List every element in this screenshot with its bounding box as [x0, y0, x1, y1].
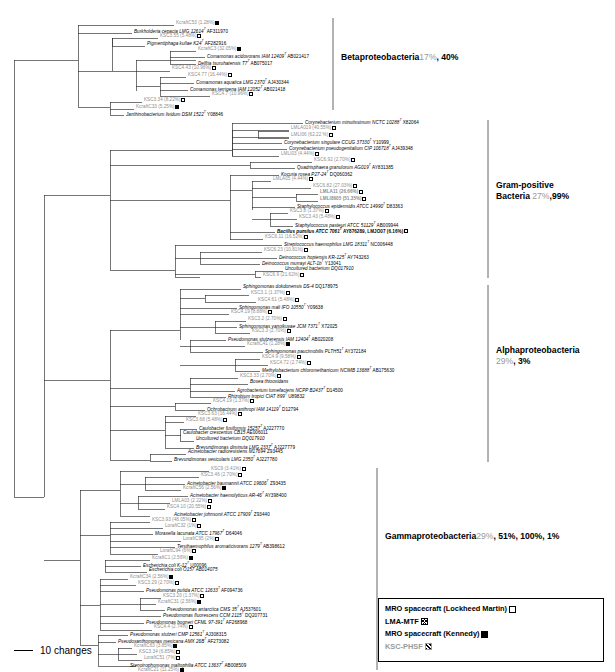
cross-hatched-square-icon: [304, 235, 308, 239]
taxon-label: KSC4.77 (16.44%): [188, 72, 232, 77]
taxon-name: KSC3.93 (48.05%): [152, 517, 191, 522]
taxon-label: KcraftC34 (2.56%): [130, 574, 173, 579]
taxon-name: KcraftC34 (2.56%): [130, 574, 169, 579]
group-pct-alpha-1: 3%: [518, 356, 530, 366]
accession-number: AB075017: [249, 61, 272, 66]
taxon-label: KcraftC41 (1.28%): [247, 341, 290, 346]
legend-label-mro-kennedy: MRO spacecraft (Kennedy): [385, 628, 479, 641]
cross-hatched-square-icon: [268, 310, 272, 314]
taxon-name: Pseudomonas stutzeri CMP 12561: [130, 632, 202, 637]
legend-item-ksc-phsf: KSC-PHSF: [385, 641, 597, 654]
taxon-name: KSC3.34 (8.22%): [144, 97, 181, 102]
cross-hatched-square-icon: [238, 473, 242, 477]
taxon-label: LMLI06 (62.22 %): [291, 132, 333, 137]
legend-box: MRO spacecraft (Lockheed Martin) LMA-MTF…: [378, 598, 604, 662]
filled-square-icon: [175, 105, 179, 109]
taxon-label: KSC3.8 (1.37%): [290, 208, 329, 213]
accession-number: AB021417: [286, 54, 309, 59]
taxon-name: KSC3.68 (5.48%): [186, 417, 223, 422]
taxon-name: Pseudomonas fluorescens CCM 2115: [163, 613, 242, 618]
taxon-label: KSC6.9 (21.62%): [263, 272, 304, 277]
open-square-icon: [197, 524, 201, 528]
filled-square-icon: [215, 21, 219, 25]
taxon-label: LoraftC94 (6%): [160, 548, 196, 553]
cross-hatched-square-icon: [329, 133, 333, 137]
taxon-name: KSC3.1 (1.37%): [251, 290, 285, 295]
taxon-name: Corynebacterium pseudogenitalium CIP 106…: [289, 146, 389, 151]
group-label-gammaproteobacteria: Gammaproteobacteria29%, 51%, 100%, 1%: [385, 531, 559, 542]
taxon-name: KSC4.10 (20.55%): [167, 504, 206, 509]
taxon-label: Acinetobacter haemolyticus AR-46T AY3984…: [190, 491, 287, 498]
accession-number: D12794: [281, 407, 299, 412]
group-label-betaproteobacteria: Betaproteobacteria17%, 40%: [341, 52, 459, 63]
scale-bar: 10 changes: [14, 645, 92, 656]
taxon-name: Acinetobacter haemolyticus AR-46: [190, 493, 262, 498]
taxon-label: KSC3.1 (1.37%): [251, 290, 290, 295]
cross-hatched-square-icon: [297, 355, 301, 359]
taxon-label: LMLA03 (2.22%): [172, 498, 212, 503]
taxon-label: KSC4.19 (1.37%): [213, 398, 254, 403]
cross-hatched-square-icon: [250, 399, 254, 403]
taxon-label: KSC4.10 (20.55%): [167, 504, 211, 509]
group-name-gram-line2: Bacteria: [496, 191, 530, 201]
accession-number: NC006448: [369, 242, 393, 247]
taxon-label: KSC4.61 (5.48%): [258, 297, 299, 302]
accession-number: AY831385: [371, 165, 394, 170]
group-pct-gamma-1: 51%: [498, 531, 515, 541]
accession-number: AB175630: [371, 368, 394, 373]
group-name-gram-line1: Gram-positive: [496, 180, 569, 191]
taxon-label: KSC3.46 (2.70%): [201, 472, 242, 477]
accession-number: AJ430344: [267, 80, 289, 85]
taxon-name: KSC3.43 (5.48%): [299, 214, 336, 219]
taxon-label: KSC6.92 (2.70%): [314, 157, 355, 162]
taxon-name: KSC6.82 (27.03%): [313, 183, 352, 188]
group-pct-beta-1: 40%: [441, 52, 458, 62]
legend-label-ksc-phsf: KSC-PHSF: [385, 641, 423, 654]
filled-square-icon: [189, 556, 193, 560]
taxon-name: KcraftC3 (32.05%): [198, 46, 237, 51]
taxon-label: LMLA05 (4.44%): [273, 176, 313, 181]
taxon-label: Brevundimonas vesicularis LMG 2350T AJ22…: [174, 455, 277, 462]
cross-hatched-square-icon: [207, 505, 211, 509]
taxon-label: Acinetobacter johnsonii ATCC 17909T Z934…: [174, 510, 270, 517]
taxon-name: LMLA11 (26.66%): [320, 189, 358, 194]
taxon-name: KcraftC1 (2.56%): [152, 555, 188, 560]
taxon-name: KcraftC56 (2.56%): [183, 485, 222, 490]
cross-hatched-square-icon: [286, 291, 290, 295]
taxon-label: Moraxella lacunata ATCC 17967T D64046: [155, 529, 242, 536]
taxon-label: Deinococcus murrayi ALT-1bT Y13041: [262, 259, 341, 266]
taxon-name: Moraxella lacunata ATCC 17967: [155, 531, 222, 536]
taxon-name: KcraftC41 (1.28%): [247, 341, 286, 346]
filled-square-icon: [197, 600, 201, 604]
taxon-name: KcraftC21 (11.25%): [138, 667, 179, 672]
taxon-name: Acinetobacter radioresistens M17694: [188, 449, 266, 454]
taxon-name: KSC3.2 (2.70%): [248, 316, 282, 321]
filled-square-icon: [173, 644, 177, 648]
taxon-label: KSC4.19 (8.88%): [231, 309, 272, 314]
cross-hatched-square-icon: [309, 177, 313, 181]
taxon-name: KcraftC63 (3.85%): [134, 643, 173, 648]
taxon-name: KSC3.29 (2.70%): [138, 580, 175, 585]
taxon-name: KSC4.61 (5.48%): [258, 297, 295, 302]
taxon-name: Caulobacter crescentus CB15: [183, 430, 245, 435]
taxon-label: Comamonas acidovorans IAM 12409T AB02141…: [207, 52, 309, 59]
taxon-name: LMLA05 (4.44%): [273, 176, 308, 181]
cross-hatched-square-icon: [192, 518, 196, 522]
taxon-name: KSC3.33 (2.70%): [240, 373, 277, 378]
taxon-label: KSC3.33 (2.70%): [240, 373, 281, 378]
accession-number: AF094736: [220, 588, 243, 593]
taxon-label: KSC4.72 (2.74%): [270, 360, 311, 365]
taxon-label: Methylobacterium chloromethanicum NCIMB …: [262, 366, 394, 373]
accession-number: AB398612: [262, 544, 285, 549]
taxon-label: Bosea thiooxidans: [250, 379, 288, 384]
cross-hatched-square-icon: [315, 152, 319, 156]
taxon-label: KSC3.93 (48.05%): [152, 517, 196, 522]
taxon-name: KcraftC31 (2.56%): [158, 599, 197, 604]
accession-number: AY743263: [346, 255, 369, 260]
taxon-name: Uncultured bacterium DQ017910: [196, 436, 265, 441]
accession-number: AY876289, LMJO07 (6.16%): [342, 229, 403, 234]
taxon-label: Uncultured bacterium DQ017910: [196, 436, 265, 441]
taxon-label: KSC3.63 (16.44%): [198, 411, 242, 416]
taxon-label: KSC6.11 (16.52%): [265, 234, 308, 239]
taxon-label: Quadrisphaera granulorum AG019T AY831385: [297, 163, 393, 170]
